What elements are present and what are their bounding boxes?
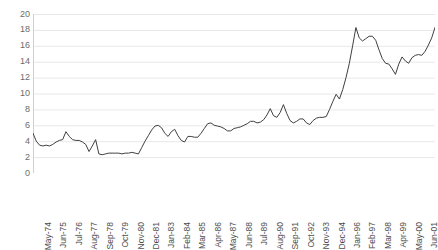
x-tick-label-text: Aug-90 xyxy=(276,222,285,249)
x-tick-label-text: Sep-91 xyxy=(291,222,300,249)
x-tick-label-text: Dec-94 xyxy=(338,222,347,249)
x-tick-label: May-74 xyxy=(44,222,53,250)
x-tick-label-text: Apr-99 xyxy=(399,222,408,248)
x-tick-label: Mar-85 xyxy=(198,222,207,249)
x-tick-label: Sep-78 xyxy=(106,222,115,249)
y-tick-label: 18 xyxy=(2,25,30,34)
x-tick-label-text: Jun-75 xyxy=(59,222,68,248)
x-tick-label-text: Feb-97 xyxy=(368,222,377,249)
plot-area xyxy=(33,14,435,173)
x-tick-label-text: Aug-77 xyxy=(90,222,99,249)
x-tick-label-text: May-87 xyxy=(229,222,238,250)
x-tick-label-text: Feb-84 xyxy=(183,222,192,249)
y-tick-label: 10 xyxy=(2,89,30,98)
x-tick-label: Jul-89 xyxy=(260,222,269,245)
x-tick-label: Apr-99 xyxy=(399,222,408,248)
x-tick-label-text: Dec-81 xyxy=(152,222,161,249)
x-tick-label-text: Nov-93 xyxy=(322,222,331,249)
plot-svg xyxy=(33,14,435,173)
x-tick-label: Mar-98 xyxy=(384,222,393,249)
x-tick-label-text: May-74 xyxy=(44,222,53,250)
x-tick-label: Aug-77 xyxy=(90,222,99,249)
x-tick-label-text: Oct-92 xyxy=(307,222,316,248)
x-axis: May-74Jun-75Jul-76Aug-77Sep-78Oct-79Nov-… xyxy=(33,176,435,224)
x-tick-label-text: Jun-88 xyxy=(245,222,254,248)
y-tick-label: 0 xyxy=(2,169,30,178)
x-tick-label: Oct-79 xyxy=(121,222,130,248)
y-tick-label: 16 xyxy=(2,41,30,50)
x-tick-label: Jun-75 xyxy=(59,222,68,248)
x-tick-label: May-87 xyxy=(229,222,238,250)
x-tick-label: Nov-80 xyxy=(137,222,146,249)
x-tick-label-text: Jul-76 xyxy=(75,222,84,245)
y-tick-label: 6 xyxy=(2,121,30,130)
x-tick-label: Feb-84 xyxy=(183,222,192,249)
x-tick-label: Jun-88 xyxy=(245,222,254,248)
x-tick-label-text: Mar-98 xyxy=(384,222,393,249)
x-tick-label-text: Jan-96 xyxy=(353,222,362,248)
x-tick-label: Jan-96 xyxy=(353,222,362,248)
x-tick-label: May-00 xyxy=(415,222,424,250)
x-tick-label: Oct-92 xyxy=(307,222,316,248)
x-tick-label: Aug-90 xyxy=(276,222,285,249)
x-tick-label-text: Jan-83 xyxy=(167,222,176,248)
x-tick-label: Jun-01 xyxy=(430,222,438,248)
y-tick-label: 8 xyxy=(2,105,30,114)
y-tick-label: 20 xyxy=(2,10,30,19)
y-tick-label: 12 xyxy=(2,73,30,82)
x-tick-label: Dec-94 xyxy=(338,222,347,249)
x-tick-label-text: May-00 xyxy=(415,222,424,250)
x-tick-label: Jul-76 xyxy=(75,222,84,245)
x-tick-label: Sep-91 xyxy=(291,222,300,249)
x-tick-label-text: Nov-80 xyxy=(137,222,146,249)
x-tick-label-text: Mar-85 xyxy=(198,222,207,249)
y-tick-label: 2 xyxy=(2,153,30,162)
x-tick-label-text: Apr-86 xyxy=(214,222,223,248)
x-tick-label: Feb-97 xyxy=(368,222,377,249)
y-tick-label: 14 xyxy=(2,57,30,66)
x-tick-label: Jan-83 xyxy=(167,222,176,248)
x-tick-label-text: Jun-01 xyxy=(430,222,438,248)
x-tick-label-text: Sep-78 xyxy=(106,222,115,249)
y-axis: 02468101214161820 xyxy=(0,0,30,224)
x-tick-label: Dec-81 xyxy=(152,222,161,249)
y-tick-label: 4 xyxy=(2,137,30,146)
x-tick-label-text: Oct-79 xyxy=(121,222,130,248)
x-tick-label: Apr-86 xyxy=(214,222,223,248)
x-tick-label: Nov-93 xyxy=(322,222,331,249)
x-tick-label-text: Jul-89 xyxy=(260,222,269,245)
